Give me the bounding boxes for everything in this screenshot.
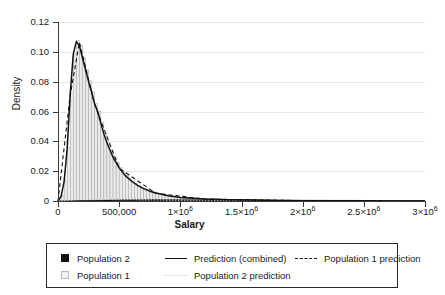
legend-row: Population 1Population 2 prediction xyxy=(47,267,397,283)
legend-item[interactable]: Population 1 prediction xyxy=(295,250,421,266)
histogram-bar xyxy=(98,112,101,202)
histogram-bar xyxy=(73,54,76,201)
dotted-line-icon xyxy=(165,271,187,279)
y-tick xyxy=(53,52,58,53)
legend-row: Population 2Prediction (combined)Populat… xyxy=(47,250,397,266)
histogram-bar xyxy=(128,178,131,201)
x-axis-title-text: Salary xyxy=(174,219,204,230)
y-tick xyxy=(53,22,58,23)
y-axis-line xyxy=(58,22,59,202)
histogram-bar xyxy=(122,172,125,201)
legend-item[interactable]: Population 2 xyxy=(61,250,130,266)
y-tick-label: 0.04 xyxy=(0,136,49,146)
chart-area: 00.020.040.060.080.100.12 0500,0001×1061… xyxy=(0,0,445,236)
legend-label: Population 2 prediction xyxy=(194,270,291,281)
y-tick xyxy=(53,112,58,113)
chart-legend: Population 2Prediction (combined)Populat… xyxy=(46,243,398,288)
histogram-bar xyxy=(95,103,98,201)
histogram-bar xyxy=(107,143,110,201)
histogram-bar xyxy=(104,134,107,201)
y-tick xyxy=(53,82,58,83)
histogram-bar xyxy=(64,180,67,201)
histogram-bar xyxy=(119,168,122,201)
filled-square-icon xyxy=(61,254,69,262)
y-tick-label: 0 xyxy=(0,196,49,206)
y-tick-label: 0.06 xyxy=(0,107,49,117)
histogram-bar xyxy=(67,147,70,201)
histogram-bar xyxy=(70,92,73,201)
histogram-bar xyxy=(86,69,89,201)
x-axis-title: Salary xyxy=(0,219,445,230)
legend-item[interactable]: Population 1 xyxy=(61,267,130,283)
open-square-icon xyxy=(61,271,69,279)
y-tick-label: 0.12 xyxy=(0,17,49,27)
legend-item[interactable]: Prediction (combined) xyxy=(165,250,286,266)
histogram-bar xyxy=(76,41,79,201)
legend-label: Population 2 xyxy=(77,253,130,264)
legend-item[interactable]: Population 2 prediction xyxy=(165,267,291,283)
histogram-bar xyxy=(82,57,85,201)
histogram-bar xyxy=(113,157,116,201)
dashed-line-icon xyxy=(295,254,317,262)
y-axis-title: Density xyxy=(11,54,22,134)
y-tick-label: 0.08 xyxy=(0,77,49,87)
plot-svg xyxy=(58,22,425,201)
plot-canvas xyxy=(58,22,425,201)
legend-label: Population 1 xyxy=(77,270,130,281)
y-tick xyxy=(53,171,58,172)
legend-label: Prediction (combined) xyxy=(194,253,286,264)
histogram-bar xyxy=(92,92,95,201)
histogram-bar xyxy=(79,45,82,201)
histogram-bar xyxy=(131,181,134,201)
y-tick xyxy=(53,141,58,142)
y-tick-label: 0.02 xyxy=(0,166,49,176)
y-tick-label: 0.10 xyxy=(0,47,49,57)
chart-screenshot: 00.020.040.060.080.100.12 0500,0001×1061… xyxy=(0,0,445,295)
histogram-bar xyxy=(89,81,92,201)
solid-line-icon xyxy=(165,254,187,262)
legend-label: Population 1 prediction xyxy=(324,253,421,264)
x-tick-label: 3×106 xyxy=(385,206,445,217)
histogram-bar xyxy=(125,175,128,201)
histogram-bars xyxy=(61,41,425,202)
